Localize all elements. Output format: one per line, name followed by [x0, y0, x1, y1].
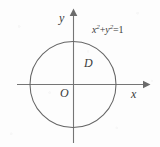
y-axis-arrowhead — [70, 9, 78, 17]
circle-equation-label: x2+y2=1 — [92, 24, 124, 35]
equation-value: 1 — [119, 24, 124, 35]
figure-canvas: y x O D x2+y2=1 — [0, 0, 160, 147]
coordinate-plane-svg — [0, 0, 160, 147]
y-axis-label: y — [59, 12, 64, 24]
origin-label: O — [60, 87, 69, 99]
x-axis-arrowhead — [143, 81, 151, 89]
x-axis-label: x — [131, 88, 136, 100]
region-label-d: D — [84, 57, 93, 69]
